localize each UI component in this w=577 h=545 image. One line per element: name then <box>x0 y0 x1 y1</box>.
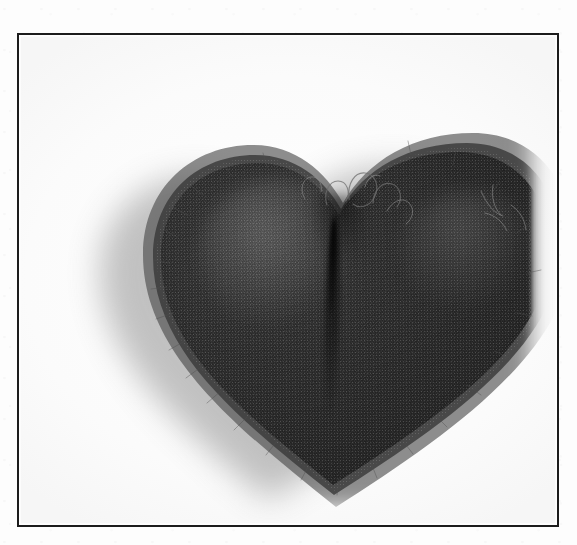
halftone-screen <box>81 87 531 507</box>
plate-alt-text: Black-and-white halftone photograph of a… <box>21 53 22 54</box>
page-canvas: Black-and-white halftone photograph of a… <box>0 0 577 545</box>
photograph-field: Black-and-white halftone photograph of a… <box>21 37 555 523</box>
plate-border: Black-and-white halftone photograph of a… <box>17 33 559 527</box>
felted-heart-object <box>81 87 531 507</box>
